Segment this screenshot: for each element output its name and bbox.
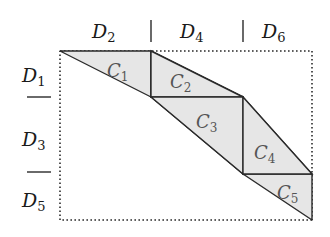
column-label-d6: D6 [261, 20, 286, 45]
block-matrix-diagram: D2 D4 D6 D1 D3 D5 C1 C2 C3 C4 C5 [0, 0, 330, 237]
region-c1 [60, 51, 151, 97]
diagram-svg: D2 D4 D6 D1 D3 D5 C1 C2 C3 C4 C5 [0, 0, 330, 237]
row-label-d3: D3 [21, 128, 46, 153]
row-label-d1: D1 [21, 64, 46, 89]
column-label-d2: D2 [91, 20, 116, 45]
column-label-d4: D4 [179, 20, 204, 45]
region-edges [151, 51, 312, 174]
row-label-d5: D5 [21, 189, 46, 214]
